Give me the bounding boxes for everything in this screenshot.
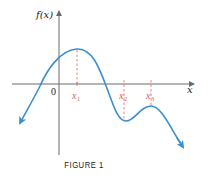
function-curve (40, 49, 181, 144)
x2-label: x 2 (118, 90, 127, 102)
figure-caption: FIGURE 1 (13, 160, 156, 170)
svg-text:1: 1 (77, 95, 80, 102)
curve-left-arrow-icon (20, 86, 40, 123)
x-axis-label: x (187, 84, 193, 95)
x1-label: x 1 (71, 90, 80, 102)
origin-label: 0 (51, 86, 56, 97)
y-axis-label: f(x) (35, 9, 53, 20)
curve-right-arrow-icon (177, 138, 183, 147)
graph-canvas: f(x) x 0 x 1 x 2 x 3 (0, 0, 208, 182)
svg-text:2: 2 (124, 95, 127, 102)
svg-text:3: 3 (151, 95, 154, 102)
x3-label: x 3 (145, 90, 154, 102)
function-graph-figure: f(x) x 0 x 1 x 2 x 3 FIGURE 1 (0, 0, 208, 182)
